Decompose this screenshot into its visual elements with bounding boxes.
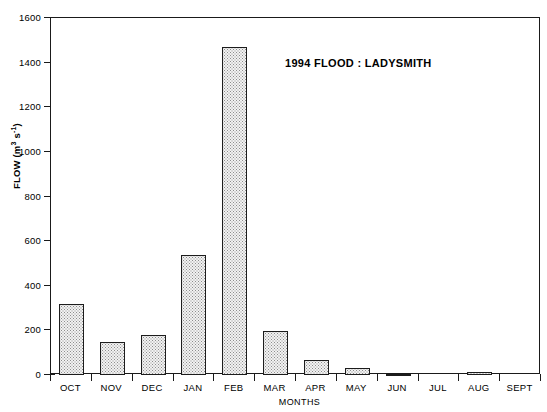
- bar-aug: [467, 372, 492, 375]
- y-axis-tick-label: 1200: [1, 101, 41, 112]
- x-axis-tick-label-jun: JUN: [387, 382, 406, 393]
- bar-feb: [222, 47, 247, 375]
- x-axis-title: MONTHS: [0, 397, 547, 407]
- x-axis-tick-label-aug: AUG: [468, 382, 490, 393]
- bar-jan: [181, 255, 206, 375]
- bar-jun: [386, 374, 411, 376]
- y-axis-tick-label: 200: [1, 324, 41, 335]
- x-axis-tick: [173, 374, 174, 381]
- flow-bar-chart: FLOW (m3 s-1) 02004006008001000120014001…: [0, 0, 547, 412]
- y-axis-tick-label: 1400: [1, 56, 41, 67]
- x-axis-tick-label-jul: JUL: [429, 382, 447, 393]
- x-axis-tick-label-apr: APR: [305, 382, 325, 393]
- bar-oct: [59, 304, 84, 375]
- x-axis-title-text: MONTHS: [227, 397, 320, 407]
- x-axis-tick-label-jan: JAN: [183, 382, 202, 393]
- bar-mar: [263, 331, 288, 375]
- x-axis-tick-label-may: MAY: [346, 382, 367, 393]
- x-axis-tick: [377, 374, 378, 381]
- plot-area: [50, 17, 540, 374]
- y-axis-tick-labels: 02004006008001000120014001600: [0, 0, 41, 412]
- chart-title: 1994 FLOOD : LADYSMITH: [285, 57, 432, 69]
- bar-nov: [100, 342, 125, 375]
- x-axis-tick-label-nov: NOV: [101, 382, 123, 393]
- x-axis-tick: [540, 374, 541, 381]
- bar-apr: [304, 360, 329, 375]
- x-axis-tick-label-oct: OCT: [60, 382, 81, 393]
- x-axis-tick: [213, 374, 214, 381]
- x-axis-tick: [499, 374, 500, 381]
- x-axis-tick: [295, 374, 296, 381]
- x-axis-tick-label-mar: MAR: [264, 382, 286, 393]
- x-axis-tick: [458, 374, 459, 381]
- bar-dec: [141, 335, 166, 375]
- y-axis-tick-label: 800: [1, 190, 41, 201]
- x-axis-tick: [336, 374, 337, 381]
- x-axis-tick: [254, 374, 255, 381]
- x-axis-tick-label-feb: FEB: [224, 382, 243, 393]
- x-axis-tick: [91, 374, 92, 381]
- x-axis-tick: [418, 374, 419, 381]
- x-axis-tick: [132, 374, 133, 381]
- x-axis-tick-label-sept: SEPT: [507, 382, 533, 393]
- y-axis-tick-label: 1600: [1, 12, 41, 23]
- y-axis-tick-label: 600: [1, 235, 41, 246]
- y-axis-tick-label: 0: [1, 369, 41, 380]
- x-axis-tick: [50, 374, 51, 381]
- x-axis-tick-label-dec: DEC: [142, 382, 163, 393]
- y-axis-tick-label: 1000: [1, 145, 41, 156]
- y-axis-tick-label: 400: [1, 279, 41, 290]
- bar-may: [345, 368, 370, 375]
